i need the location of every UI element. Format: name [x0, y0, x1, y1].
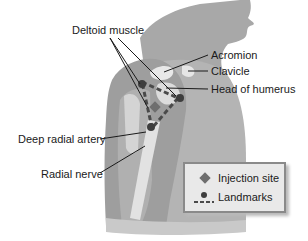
- legend-item-landmarks: Landmarks: [185, 190, 284, 204]
- landmark-dot-insertion: [147, 123, 155, 131]
- humerus-neck: [124, 94, 140, 154]
- legend-box: Injection site Landmarks: [183, 162, 286, 213]
- legend-label: Injection site: [218, 171, 279, 185]
- landmark-dot-acromion: [138, 80, 146, 88]
- legend-label: Landmarks: [218, 190, 272, 204]
- label-clavicle: Clavicle: [211, 65, 250, 77]
- label-deltoid-muscle: Deltoid muscle: [72, 24, 144, 36]
- label-radial-nerve: Radial nerve: [41, 168, 103, 180]
- label-head-of-humerus: Head of humerus: [211, 83, 295, 95]
- diamond-icon: [198, 171, 212, 185]
- legend-item-injection-site: Injection site: [185, 171, 284, 185]
- deltoid-injection-diagram: Deltoid muscle Acromion Clavicle Head of…: [0, 0, 308, 241]
- label-deep-radial-artery: Deep radial artery: [18, 133, 105, 145]
- label-acromion: Acromion: [211, 49, 257, 61]
- dot-dashed-line-icon: [193, 190, 215, 206]
- landmark-dot-humerus: [176, 94, 184, 102]
